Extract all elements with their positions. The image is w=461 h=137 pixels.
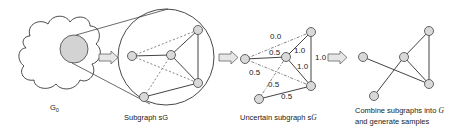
- graph-node: [140, 93, 149, 102]
- graph-node: [167, 51, 176, 60]
- g0-label: G0: [50, 103, 59, 113]
- stage-combine: Combine subgraphs into G and generate sa…: [355, 27, 444, 127]
- uncertain-label: Uncertain subgraph sG: [240, 113, 317, 122]
- edge-label: 0.5: [269, 48, 281, 57]
- graph-node: [282, 53, 291, 62]
- subgraph-label: Subgraph sG: [124, 113, 168, 122]
- arrow-right-icon: [328, 51, 347, 64]
- arrow-right-icon: [219, 51, 238, 64]
- graph-node: [241, 55, 250, 64]
- stage-g0: G0: [19, 16, 100, 113]
- stage-uncertain: 0.0 0.5 0.5 0.5 1.0 1.0 1.0 0.5 Uncertai…: [240, 28, 327, 123]
- zoom-line-bottom: [72, 63, 150, 104]
- combine-label-line1: Combine subgraphs into G: [355, 106, 444, 115]
- graph-node: [370, 92, 379, 101]
- edge-label: 1.0: [294, 46, 306, 55]
- graph-node: [128, 52, 137, 61]
- graph-node: [255, 95, 264, 104]
- cloud-shape: [19, 16, 100, 89]
- pipeline-diagram: G0 Subgraph sG: [0, 0, 461, 137]
- edge-label: 1.0: [297, 62, 309, 71]
- edge-label: 0.5: [281, 92, 293, 101]
- zoom-line-top: [76, 9, 168, 35]
- graph-node: [425, 80, 434, 89]
- highlighted-region: [60, 35, 88, 63]
- edge-label: 1.0: [315, 53, 327, 62]
- graph-node: [307, 28, 316, 37]
- edge-label: 0.5: [249, 68, 261, 77]
- graph-node: [194, 79, 203, 88]
- edge-label: 0.5: [268, 80, 280, 89]
- stage-subgraph: Subgraph sG: [118, 9, 214, 122]
- arrow-right-icon: [99, 51, 118, 64]
- graph-node: [400, 53, 409, 62]
- graph-node: [194, 26, 203, 35]
- graph-node: [359, 53, 368, 62]
- graph-node: [425, 27, 434, 36]
- combine-label-line2: and generate samples: [355, 117, 429, 126]
- graph-node: [307, 82, 316, 91]
- edge-label: 0.0: [270, 32, 282, 41]
